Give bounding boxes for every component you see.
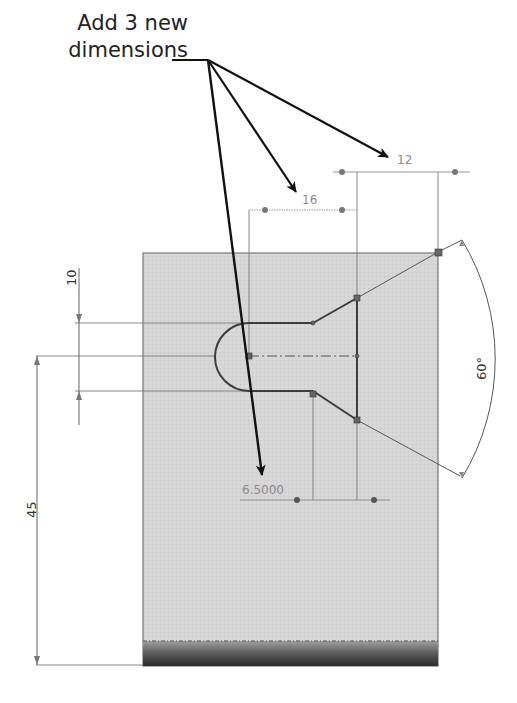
arrow-to-12 (208, 60, 388, 157)
dimension-16-value: 16 (302, 193, 317, 207)
dimension-12-value: 12 (397, 153, 412, 167)
dimension-angle-60[interactable]: 60° (459, 240, 495, 478)
arrow-to-16 (208, 60, 296, 192)
dimension-angle-value: 60° (474, 357, 489, 380)
part-body (143, 253, 438, 666)
dimension-6-5-value: 6.5000 (242, 483, 284, 497)
dimension-45-value: 45 (24, 501, 39, 518)
dimension-12[interactable]: 12 (333, 153, 470, 175)
dimension-16[interactable]: 16 (249, 193, 357, 213)
dimension-10[interactable]: 10 (64, 268, 82, 425)
dimension-45[interactable]: 45 (24, 356, 40, 665)
dimension-10-value: 10 (64, 269, 79, 286)
sketch-canvas[interactable]: 12 16 6.5000 60° 10 45 (0, 0, 517, 703)
